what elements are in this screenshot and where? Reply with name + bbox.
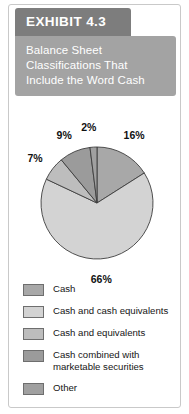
- legend-item-label: Cash: [53, 283, 75, 295]
- legend-item[interactable]: Cash and cash equivalents: [23, 305, 182, 318]
- exhibit-title-band: Balance Sheet Classifications That Inclu…: [15, 36, 176, 96]
- legend-item[interactable]: Cash and equivalents: [23, 327, 182, 340]
- legend-item-label: Other: [53, 382, 77, 394]
- legend-item-label: Cash and cash equivalents: [53, 305, 168, 317]
- legend-item[interactable]: Other: [23, 382, 182, 395]
- pie-slice-label: 7%: [28, 153, 43, 164]
- exhibit-number-label: EXHIBIT 4.3: [26, 15, 106, 29]
- pie-slice-label: 2%: [81, 122, 96, 133]
- pie-chart: 16%66%7%9%2%: [9, 101, 182, 281]
- chart-legend: CashCash and cash equivalentsCash and eq…: [9, 283, 182, 404]
- legend-color-swatch: [23, 350, 44, 362]
- legend-item[interactable]: Cash combined with marketable securities: [23, 349, 182, 373]
- legend-color-swatch: [23, 328, 44, 340]
- legend-color-swatch: [23, 284, 44, 296]
- legend-item-label: Cash combined with marketable securities: [53, 349, 144, 373]
- exhibit-number-tab: EXHIBIT 4.3: [15, 8, 131, 36]
- legend-item[interactable]: Cash: [23, 283, 182, 296]
- pie-slice-label: 16%: [124, 130, 145, 141]
- pie-slice-label: 9%: [57, 130, 72, 141]
- exhibit-title: Balance Sheet Classifications That Inclu…: [26, 43, 168, 89]
- pie-slice-group: [41, 147, 153, 259]
- legend-item-label: Cash and equivalents: [53, 327, 145, 339]
- legend-color-swatch: [23, 306, 44, 318]
- legend-color-swatch: [23, 383, 44, 395]
- exhibit-header: EXHIBIT 4.3 Balance Sheet Classification…: [9, 5, 182, 101]
- exhibit-card: EXHIBIT 4.3 Balance Sheet Classification…: [8, 4, 181, 408]
